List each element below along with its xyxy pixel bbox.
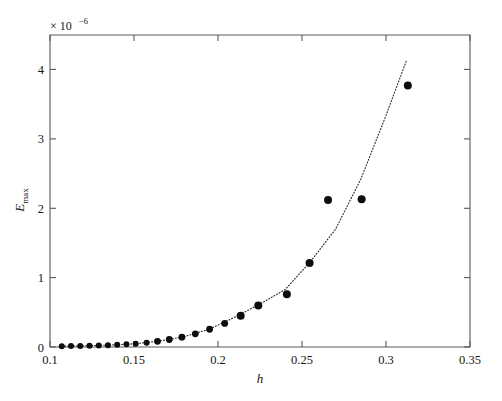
data-point bbox=[358, 195, 366, 203]
y-tick-label-3: 3 bbox=[38, 132, 44, 146]
data-point bbox=[68, 343, 74, 349]
data-point bbox=[114, 342, 120, 348]
data-point bbox=[324, 196, 332, 204]
y-axis-label-sub: max bbox=[20, 188, 30, 204]
x-tick-label-1: 0.15 bbox=[123, 353, 145, 367]
data-point bbox=[154, 338, 161, 345]
data-point bbox=[237, 312, 245, 320]
data-point bbox=[306, 259, 314, 267]
y-tick-label-1: 1 bbox=[38, 271, 44, 285]
data-point bbox=[178, 334, 185, 341]
data-point bbox=[133, 341, 139, 347]
data-point bbox=[123, 341, 129, 347]
y-tick-label-4: 4 bbox=[38, 63, 45, 77]
x-tick-label-5: 0.35 bbox=[459, 353, 481, 367]
data-point bbox=[404, 82, 412, 90]
data-point bbox=[221, 320, 228, 327]
data-point bbox=[283, 290, 291, 298]
figure-container: 0 1 2 3 4 0.1 0.15 0.2 0.25 0.3 0.35 × 1… bbox=[0, 0, 502, 401]
x-axis-label: h bbox=[257, 371, 264, 386]
data-point bbox=[86, 343, 92, 349]
data-point bbox=[105, 342, 111, 348]
y-multiplier-exponent: −6 bbox=[79, 16, 88, 26]
data-point bbox=[206, 326, 213, 333]
data-point bbox=[254, 301, 262, 309]
x-tick-label-2: 0.2 bbox=[210, 353, 226, 367]
data-point bbox=[59, 343, 65, 349]
x-tick-label-4: 0.3 bbox=[378, 353, 394, 367]
plot-svg: 0 1 2 3 4 0.1 0.15 0.2 0.25 0.3 0.35 × 1… bbox=[0, 0, 502, 401]
x-tick-label-3: 0.25 bbox=[291, 353, 313, 367]
data-point bbox=[144, 340, 150, 346]
y-axis-label-base: E bbox=[12, 204, 27, 213]
figure-background bbox=[0, 0, 502, 401]
data-point bbox=[77, 343, 83, 349]
y-multiplier-prefix: × 10 bbox=[50, 19, 72, 33]
data-point bbox=[192, 330, 199, 337]
data-point bbox=[166, 336, 173, 343]
x-tick-label-0: 0.1 bbox=[42, 353, 58, 367]
y-tick-label-2: 2 bbox=[38, 202, 44, 216]
data-point bbox=[96, 342, 102, 348]
